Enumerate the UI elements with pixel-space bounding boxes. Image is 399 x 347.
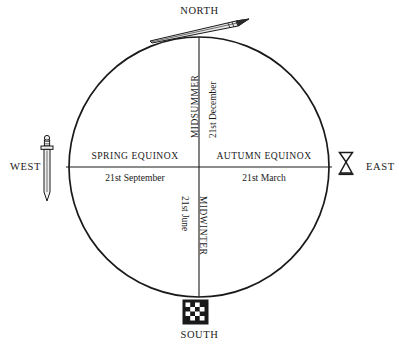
midwinter-title: MIDWINTER	[198, 196, 207, 255]
cardinal-label-east: EAST	[366, 162, 395, 173]
checkerboard-shield-icon	[182, 299, 209, 329]
cardinal-label-north: NORTH	[0, 6, 399, 17]
midsummer-date: 21st December	[209, 82, 218, 139]
goblet-hourglass-icon	[336, 150, 356, 180]
seasonal-compass-diagram: NORTH SOUTH WEST EAST SPRING EQUINOX 21s…	[0, 0, 399, 347]
midwinter-date: 21st June	[180, 196, 189, 231]
autumn-equinox-title: AUTUMN EQUINOX	[203, 151, 325, 161]
spring-equinox-title: SPRING EQUINOX	[74, 151, 196, 161]
midsummer-title: MIDSUMMER	[191, 75, 200, 138]
spear-icon	[148, 18, 252, 48]
cardinal-label-west: WEST	[10, 162, 41, 173]
autumn-equinox-date: 21st March	[203, 173, 325, 183]
spring-equinox-date: 21st September	[74, 173, 196, 183]
cardinal-label-south: SOUTH	[0, 330, 399, 341]
